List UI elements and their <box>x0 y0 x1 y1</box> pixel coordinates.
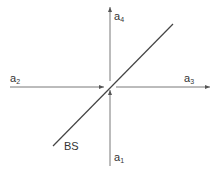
label-a2: a2 <box>10 73 20 85</box>
label-a3: a3 <box>184 73 194 85</box>
label-a1: a1 <box>114 152 124 164</box>
diagram-canvas <box>0 0 218 174</box>
label-bs: BS <box>64 141 79 152</box>
beam-splitter-line <box>53 24 173 146</box>
label-a4: a4 <box>114 11 124 23</box>
